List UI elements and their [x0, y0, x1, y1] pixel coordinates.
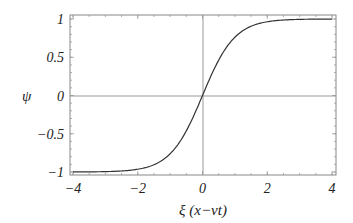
x-tick-label: −2 — [130, 181, 146, 196]
y-tick-label: 0.5 — [47, 50, 65, 65]
x-axis-label: ξ (x−vt) — [179, 202, 227, 219]
x-tick-label: −4 — [65, 181, 81, 196]
y-tick-label: −1 — [48, 165, 64, 180]
y-tick-label: 1 — [57, 12, 64, 27]
y-tick-label: 0 — [57, 89, 64, 104]
x-tick-label: 4 — [329, 181, 336, 196]
x-tick-labels: −4−2024 — [65, 181, 336, 196]
chart: −4−2024 10.50−0.5−1 ψ ξ (x−vt) — [0, 0, 353, 223]
y-axis-label: ψ — [22, 88, 32, 104]
x-tick-label: 2 — [264, 181, 271, 196]
y-tick-labels: 10.50−0.5−1 — [37, 12, 64, 180]
x-tick-label: 0 — [199, 181, 206, 196]
y-tick-label: −0.5 — [37, 127, 64, 142]
